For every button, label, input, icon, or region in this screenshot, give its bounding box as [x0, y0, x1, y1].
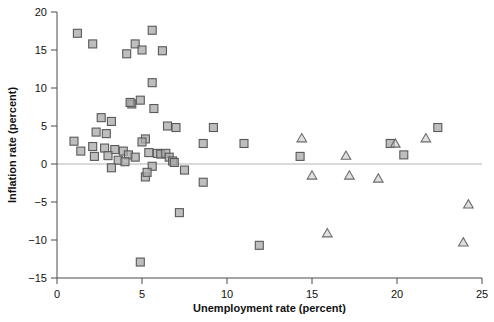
chart-canvas: 20151050−5−10−1505101520251.2, 17.22.1, … [0, 0, 494, 322]
data-point-square: 4.9, -12.9 [136, 258, 144, 266]
data-point-square: 1.4, 1.7 [77, 147, 85, 155]
data-point-square: 8.6, 2.7 [199, 139, 207, 147]
data-point-square: 4.3, 8.1 [126, 98, 134, 106]
data-point-square: 2.1, 2.3 [89, 143, 97, 151]
data-point-square: 5.3, -1.1 [143, 168, 151, 176]
data-point-square: 4.6, 0.9 [131, 153, 139, 161]
data-point-square: 9.2, 4.8 [209, 124, 217, 132]
data-point-square: 11.9, -10.7 [255, 241, 263, 249]
data-point-square: 2.6, 6.1 [97, 114, 105, 122]
data-point-square: 5.4, 1.5 [145, 149, 153, 157]
data-point-square: 2.1, 15.8 [89, 40, 97, 48]
y-tick-label: −10 [28, 234, 47, 246]
x-tick-label: 10 [221, 288, 233, 300]
data-point-square: 8.6, -2.4 [199, 178, 207, 186]
data-point-triangle: 18.9, -1.9 [374, 174, 384, 182]
data-point-square: 3, 1.1 [104, 152, 112, 160]
data-point-square: 6.9, 0.2 [170, 158, 178, 166]
data-point-square: 4.9, 8.4 [136, 96, 144, 104]
data-point-triangle: 24.2, -5.3 [464, 200, 474, 208]
data-point-square: 6.2, 14.9 [158, 47, 166, 55]
data-point-triangle: 17.2, -1.5 [345, 171, 355, 179]
x-tick-label: 0 [54, 288, 60, 300]
y-axis-title: Inflation rate (percent) [6, 87, 18, 203]
data-point-square: 2.2, 1 [90, 152, 98, 160]
data-point-square: 5, 15 [138, 46, 146, 54]
y-tick-label: −15 [28, 272, 47, 284]
y-tick-label: 15 [35, 44, 47, 56]
data-point-square: 3.2, -0.5 [107, 164, 115, 172]
data-point-square: 2.3, 4.2 [92, 128, 100, 136]
y-tick-label: −5 [34, 196, 47, 208]
data-point-square: 14.3, 1 [296, 152, 304, 160]
y-tick-label: 10 [35, 82, 47, 94]
data-point-triangle: 15.9, -9.1 [323, 229, 333, 237]
data-point-square: 20.4, 1.2 [400, 151, 408, 159]
data-point-square: 22.4, 4.8 [434, 124, 442, 132]
data-point-square: 3.2, 5.6 [107, 117, 115, 125]
x-tick-label: 5 [139, 288, 145, 300]
data-point-triangle: 15, -1.5 [307, 171, 317, 179]
data-point-square: 5.6, 10.7 [148, 79, 156, 87]
data-point-triangle: 21.7, 3.4 [421, 134, 431, 142]
data-point-square: 5.6, 17.6 [148, 26, 156, 34]
data-point-square: 2.8, 2.1 [101, 144, 109, 152]
data-point-triangle: 17, 1.1 [341, 151, 351, 159]
data-point-square: 1, 3 [70, 137, 78, 145]
data-point-square: 7.5, -0.8 [181, 166, 189, 174]
data-point-square: 4, 0.3 [121, 158, 129, 166]
x-tick-label: 25 [476, 288, 488, 300]
data-point-triangle: 14.4, 3.4 [297, 134, 307, 142]
data-point-square: 7.2, -6.4 [175, 209, 183, 217]
x-tick-label: 20 [391, 288, 403, 300]
y-tick-label: 5 [41, 120, 47, 132]
data-point-square: 2.9, 4 [102, 130, 110, 138]
data-point-square: 4.1, 14.5 [123, 50, 131, 58]
x-axis-title: Unemployment rate (percent) [193, 302, 346, 314]
data-point-square: 5, 2.9 [138, 138, 146, 146]
scatter-plot-figure: 20151050−5−10−1505101520251.2, 17.22.1, … [0, 0, 494, 322]
data-point-square: 11, 2.7 [240, 139, 248, 147]
x-tick-label: 15 [306, 288, 318, 300]
data-point-square: 6.5, 5 [164, 122, 172, 130]
data-point-square: 7, 4.8 [172, 124, 180, 132]
data-point-square: 5.7, 7.3 [150, 105, 158, 113]
y-tick-label: 0 [41, 158, 47, 170]
data-point-triangle: 23.9, -10.3 [459, 238, 469, 246]
data-point-square: 1.2, 17.2 [73, 29, 81, 37]
y-tick-label: 20 [35, 6, 47, 18]
